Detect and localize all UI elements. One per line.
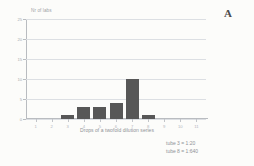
gridline xyxy=(26,59,206,60)
y-tick-mark xyxy=(23,39,26,40)
y-tick-label: 5 xyxy=(20,97,22,102)
x-tick-mark xyxy=(164,119,165,122)
bar xyxy=(93,107,106,119)
x-tick-mark xyxy=(180,119,181,122)
y-tick-label: 10 xyxy=(18,77,22,82)
y-tick-label: 15 xyxy=(18,57,22,62)
y-tick-mark xyxy=(23,119,26,120)
gridline xyxy=(26,99,206,100)
x-tick-mark xyxy=(68,119,69,122)
scanned-figure-page: A Nr of labs 0510152025 1234567891011 Dr… xyxy=(0,0,254,166)
y-tick-label: 0 xyxy=(20,117,22,122)
x-tick-mark xyxy=(196,119,197,122)
y-tick-mark xyxy=(23,59,26,60)
bar xyxy=(110,103,123,119)
y-tick-mark xyxy=(23,19,26,20)
y-tick-mark xyxy=(23,79,26,80)
x-tick-mark xyxy=(148,119,149,122)
y-tick-label: 25 xyxy=(18,17,22,22)
x-tick-mark xyxy=(132,119,133,122)
annotation-line: tube 3 = 1:20 xyxy=(166,139,198,147)
bar xyxy=(142,115,155,119)
gridline xyxy=(26,79,206,80)
x-tick-mark xyxy=(52,119,53,122)
annotation-line: tube 8 = 1:640 xyxy=(166,147,198,155)
dilution-annotations: tube 3 = 1:20tube 8 = 1:640 xyxy=(166,139,198,155)
gridline xyxy=(26,19,206,20)
bar xyxy=(126,79,139,119)
gridline xyxy=(26,39,206,40)
x-tick-mark xyxy=(36,119,37,122)
x-tick-mark xyxy=(84,119,85,122)
bar xyxy=(77,107,90,119)
x-axis-title: Drops of a twofold dilution series xyxy=(26,127,208,133)
y-axis-title: Nr of labs xyxy=(31,8,52,13)
plot-area: 0510152025 1234567891011 xyxy=(26,19,206,119)
y-tick-label: 20 xyxy=(18,37,22,42)
y-tick-mark xyxy=(23,99,26,100)
x-tick-mark xyxy=(100,119,101,122)
panel-letter-a: A xyxy=(224,7,232,19)
x-tick-mark xyxy=(116,119,117,122)
bar xyxy=(61,115,74,119)
